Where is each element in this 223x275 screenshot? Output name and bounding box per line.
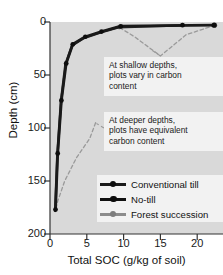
annotation-line: At shallow depths, xyxy=(109,60,219,70)
chart-legend: Conventional till No-till Forest success… xyxy=(97,175,223,222)
legend-item-forest-succession: Forest succession xyxy=(97,207,223,222)
annotation-line: carbon content xyxy=(109,136,219,146)
data-point xyxy=(55,151,60,156)
x-axis-tick-labels: 0 5 10 15 20 xyxy=(0,238,223,254)
data-point xyxy=(64,61,69,66)
data-point xyxy=(118,24,123,29)
y-tick-label: 150 xyxy=(12,175,46,186)
annotation-line: plots vary in carbon xyxy=(109,70,219,80)
data-point xyxy=(53,207,58,212)
x-tick-label: 20 xyxy=(185,238,209,249)
data-point xyxy=(83,35,88,40)
x-axis-title: Total SOC (g/kg of soil) xyxy=(30,254,223,266)
annotation-line: content xyxy=(109,81,219,91)
legend-item-no-till: No-till xyxy=(97,192,223,207)
annotation-line: At deeper depths, xyxy=(109,115,219,125)
x-tick-label: 0 xyxy=(38,238,62,249)
legend-label: Conventional till xyxy=(131,179,199,190)
legend-label: No-till xyxy=(131,194,156,205)
data-point xyxy=(99,29,104,34)
data-point xyxy=(180,23,185,28)
series-forest-succession-line-lower xyxy=(55,123,95,212)
x-tick-label: 15 xyxy=(148,238,172,249)
series-forest-succession-line xyxy=(119,25,215,56)
legend-line-icon xyxy=(100,194,126,205)
data-point xyxy=(70,42,75,47)
x-tick-label: 10 xyxy=(112,238,136,249)
data-point xyxy=(59,98,64,103)
legend-item-conventional-till: Conventional till xyxy=(97,177,223,192)
legend-label: Forest succession xyxy=(131,209,208,220)
y-axis-title: Depth (cm) xyxy=(7,65,19,155)
annotation-shallow-depths: At shallow depths, plots vary in carbon … xyxy=(104,57,223,96)
legend-line-icon xyxy=(100,209,126,220)
annotation-line: plots have equivalent xyxy=(109,125,219,135)
y-tick-label: 0 xyxy=(12,16,46,27)
annotation-deeper-depths: At deeper depths, plots have equivalent … xyxy=(104,112,223,151)
chart-figure: 0 50 100 150 200 0 5 10 15 20 Depth (cm)… xyxy=(0,0,223,275)
x-tick-label: 5 xyxy=(75,238,99,249)
data-point xyxy=(212,23,217,28)
legend-line-icon xyxy=(100,179,126,190)
